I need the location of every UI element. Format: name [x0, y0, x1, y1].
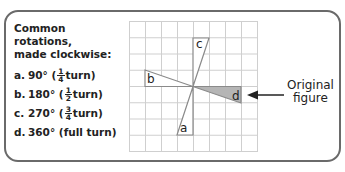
- label-d: d: [232, 89, 240, 103]
- original-figure-callout: Original figure: [287, 79, 334, 105]
- label-b: b: [147, 72, 155, 86]
- label-a: a: [180, 121, 187, 135]
- label-c: c: [196, 37, 203, 51]
- callout-line-2: figure: [287, 92, 334, 105]
- arrow-icon: [247, 91, 284, 100]
